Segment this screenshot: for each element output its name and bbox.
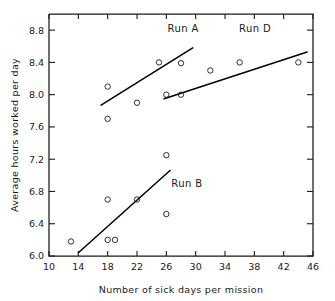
x-tick-label: 10 — [43, 261, 55, 272]
series-label: Run B — [171, 178, 202, 189]
y-tick-label: 7.2 — [29, 154, 44, 165]
x-tick-label: 42 — [278, 261, 290, 272]
x-tick-label: 18 — [102, 261, 114, 272]
x-tick-label: 38 — [248, 261, 260, 272]
y-axis-title: Average hours worked per day — [9, 58, 20, 212]
chart-canvas: 10141822263034384246 6.06.46.87.27.68.08… — [0, 0, 335, 301]
x-tick-label: 46 — [307, 261, 319, 272]
y-tick-label: 6.0 — [29, 250, 44, 261]
series-label: Run D — [239, 23, 271, 34]
y-tick-label: 8.8 — [29, 25, 44, 36]
y-tick-label: 8.0 — [29, 89, 44, 100]
y-tick-label: 6.4 — [29, 218, 44, 229]
y-tick-label: 6.8 — [29, 186, 44, 197]
x-tick-label: 30 — [190, 261, 202, 272]
x-tick-label: 26 — [160, 261, 172, 272]
x-tick-label: 34 — [219, 261, 231, 272]
x-tick-label: 14 — [72, 261, 84, 272]
series-label: Run A — [168, 23, 199, 34]
y-tick-label: 8.4 — [29, 57, 44, 68]
x-tick-label: 22 — [131, 261, 143, 272]
y-tick-label: 7.6 — [29, 121, 44, 132]
scatter-chart: 10141822263034384246 6.06.46.87.27.68.08… — [0, 0, 335, 301]
x-axis-title: Number of sick days per mission — [99, 284, 264, 295]
